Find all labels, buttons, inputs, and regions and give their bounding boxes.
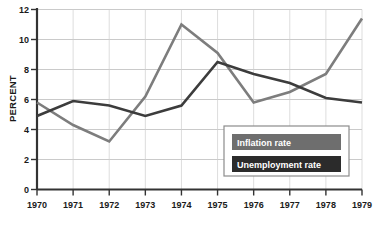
x-tick-label: 1971 — [63, 200, 83, 210]
x-tick-label: 1974 — [171, 200, 191, 210]
x-axis-tick-labels: 1970197119721973197419751976197719781979 — [27, 200, 372, 210]
y-tick-label: 8 — [24, 65, 29, 75]
y-axis-title: PERCENT — [7, 75, 18, 122]
y-tick-label: 10 — [19, 35, 29, 45]
x-tick-label: 1978 — [316, 200, 336, 210]
x-tick-label: 1977 — [280, 200, 300, 210]
legend-label: Inflation rate — [237, 138, 291, 148]
line-chart: 024681012 197019711972197319741975197619… — [0, 0, 374, 225]
y-tick-label: 0 — [24, 185, 29, 195]
y-tick-label: 12 — [19, 5, 29, 15]
chart-legend: Inflation rateUnemployment rate — [224, 126, 349, 176]
series-line-inflation-rate — [37, 19, 362, 142]
series-lines — [37, 19, 362, 142]
y-tick-label: 4 — [24, 125, 29, 135]
x-tick-label: 1972 — [99, 200, 119, 210]
y-tick-label: 6 — [24, 95, 29, 105]
series-line-unemployment-rate — [37, 62, 362, 116]
y-tick-label: 2 — [24, 155, 29, 165]
x-tick-label: 1970 — [27, 200, 47, 210]
x-tick-label: 1973 — [135, 200, 155, 210]
y-axis-tick-labels: 024681012 — [19, 5, 29, 195]
x-tick-label: 1976 — [244, 200, 264, 210]
x-tick-label: 1979 — [352, 200, 372, 210]
chart-canvas: 024681012 197019711972197319741975197619… — [0, 0, 374, 225]
legend-label: Unemployment rate — [237, 160, 321, 170]
x-tick-label: 1975 — [208, 200, 228, 210]
